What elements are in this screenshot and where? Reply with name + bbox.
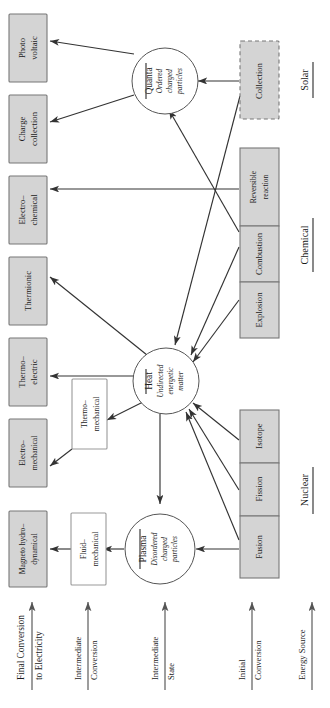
box-collection[interactable]: Collection bbox=[240, 41, 279, 119]
label-combustion-line1: Combustion bbox=[254, 232, 264, 275]
label-collection-line1: Collection bbox=[254, 62, 264, 99]
box-electro-chemical[interactable]: Electro– chemical bbox=[9, 176, 47, 244]
label-axis-intermediate-state-line1: Intermediate bbox=[150, 636, 160, 680]
edge-isotope-heat bbox=[193, 403, 239, 440]
label-axis-intermediate-conversion-line1: Intermediate bbox=[73, 636, 83, 680]
edge-explosion-heat bbox=[193, 300, 239, 362]
label-axis-initial-conversion-line2: Conversion bbox=[253, 640, 263, 680]
label-photo-voltaic-line1: Photo bbox=[17, 38, 27, 58]
box-combustion[interactable]: Combustion bbox=[240, 226, 279, 282]
box-thermionic[interactable]: Thermionic bbox=[9, 257, 47, 325]
box-fusion[interactable]: Fusion bbox=[240, 516, 279, 578]
box-electro-mechanical[interactable]: Electro– mechanical bbox=[9, 419, 47, 487]
label-fluid-mechanical-line1: Fluid– bbox=[79, 539, 88, 559]
box-thermo-mechanical[interactable]: Thermo– mechanical bbox=[72, 379, 107, 449]
box-fluid-mechanical[interactable]: Fluid– mechanical bbox=[71, 513, 106, 585]
label-thermo-electric-line2: electric bbox=[29, 359, 39, 384]
label-axis-energy-source-line1: Energy Source bbox=[297, 629, 307, 680]
label-electro-chemical-line2: chemical bbox=[29, 194, 39, 226]
category-labels: Solar Chemical Nuclear bbox=[299, 62, 313, 514]
label-magneto-hydrodynamical-line1: Magneto hydro– bbox=[18, 524, 27, 575]
label-category-nuclear: Nuclear bbox=[299, 473, 310, 506]
label-fusion-line1: Fusion bbox=[254, 535, 264, 559]
label-quanta-sub2: charged bbox=[165, 69, 174, 93]
node-plasma[interactable]: Plasma Disordered charged particles bbox=[125, 514, 195, 584]
label-charge-collection-line2: collection bbox=[29, 111, 39, 146]
edge-quanta-charge-collection bbox=[50, 95, 134, 122]
label-axis-intermediate-state-line2: State bbox=[166, 663, 176, 680]
label-isotope-line1: Isotope bbox=[254, 423, 264, 448]
category-chemical: Chemical bbox=[299, 218, 313, 272]
category-solar: Solar bbox=[299, 62, 313, 98]
label-axis-final-conversion-line1: Final Conversion bbox=[16, 615, 26, 680]
label-electro-mechanical-line1: Electro– bbox=[18, 440, 27, 466]
label-electro-chemical-line1: Electro– bbox=[17, 195, 27, 225]
initial-conversion-column: Collection Reversible reaction Combustio… bbox=[240, 41, 279, 578]
label-axis-final-conversion-line2: to Electricity bbox=[34, 631, 44, 680]
box-photo-voltaic[interactable]: Photo voltaic bbox=[9, 14, 47, 82]
edge-collection-heat bbox=[175, 96, 240, 345]
intermediate-state-column: Quanta Ordered charged particles Heat Un… bbox=[125, 48, 199, 584]
label-explosion-line1: Explosion bbox=[254, 292, 264, 328]
box-explosion[interactable]: Explosion bbox=[240, 282, 279, 338]
label-category-solar: Solar bbox=[299, 69, 310, 91]
label-fluid-mechanical-line2: mechanical bbox=[91, 532, 100, 567]
label-reversible-reaction-line2: reaction bbox=[261, 175, 270, 200]
box-charge-collection[interactable]: Charge collection bbox=[9, 95, 47, 163]
axis-energy-source: Energy Source bbox=[297, 602, 312, 690]
axis-intermediate-state: Intermediate State bbox=[150, 602, 176, 690]
node-quanta[interactable]: Quanta Ordered charged particles bbox=[132, 48, 198, 114]
axis-final-conversion: Final Conversion to Electricity bbox=[16, 602, 44, 690]
label-quanta-sub3: particles bbox=[175, 68, 184, 95]
final-conversion-column: Photo voltaic Charge collection Electro–… bbox=[9, 14, 47, 587]
label-plasma-sub2: charged bbox=[160, 537, 169, 561]
label-thermo-electric-line1: Thermo– bbox=[17, 356, 27, 388]
axis-intermediate-conversion: Intermediate Conversion bbox=[73, 602, 99, 690]
intermediate-conversion-column: Thermo– mechanical Fluid– mechanical bbox=[71, 379, 107, 585]
label-thermo-mechanical-line1: Thermo– bbox=[80, 400, 89, 428]
label-magneto-hydrodynamical-line2: dynamical bbox=[30, 533, 39, 565]
edge-fusion-heat bbox=[186, 412, 239, 540]
label-category-chemical: Chemical bbox=[299, 225, 310, 264]
label-axis-intermediate-conversion-line2: Conversion bbox=[89, 640, 99, 680]
label-fission-line1: Fission bbox=[254, 476, 264, 502]
label-heat-sub1: Undirected bbox=[156, 364, 165, 397]
edge-thermomechanical-electromechanical bbox=[50, 449, 72, 466]
edge-combustion-quanta bbox=[169, 110, 239, 232]
box-reversible-reaction[interactable]: Reversible reaction bbox=[240, 148, 279, 226]
label-heat-sub3: matter bbox=[176, 371, 185, 390]
edge-quanta-photovoltaic bbox=[50, 41, 134, 54]
energy-conversion-diagram: Photo voltaic Charge collection Electro–… bbox=[0, 0, 330, 708]
label-electro-mechanical-line2: mechanical bbox=[30, 436, 39, 471]
label-charge-collection-line1: Charge bbox=[17, 116, 27, 141]
label-heat-sub2: energetic bbox=[166, 367, 175, 395]
label-plasma-sub1: Disordered bbox=[150, 532, 159, 566]
axis-label-group: Final Conversion to Electricity Intermed… bbox=[16, 602, 312, 690]
label-plasma-sub3: particles bbox=[170, 536, 179, 563]
axis-initial-conversion: Initial Conversion bbox=[237, 602, 263, 690]
label-reversible-reaction-line1: Reversible bbox=[249, 170, 258, 203]
label-thermo-mechanical-line2: mechanical bbox=[92, 397, 101, 432]
category-nuclear: Nuclear bbox=[299, 467, 313, 514]
box-magneto-hydrodynamical[interactable]: Magneto hydro– dynamical bbox=[9, 511, 47, 587]
label-quanta-sub1: Ordered bbox=[155, 68, 164, 93]
label-axis-initial-conversion-line1: Initial bbox=[237, 659, 247, 680]
edge-fission-heat bbox=[189, 409, 239, 490]
edge-heat-thermionic bbox=[50, 277, 147, 355]
edge-combustion-heat bbox=[191, 247, 239, 355]
label-thermionic-line1: Thermionic bbox=[23, 271, 33, 311]
box-fission[interactable]: Fission bbox=[240, 463, 279, 516]
box-isotope[interactable]: Isotope bbox=[240, 410, 279, 463]
box-thermo-electric[interactable]: Thermo– electric bbox=[9, 338, 47, 406]
diagram-canvas: Photo voltaic Charge collection Electro–… bbox=[0, 0, 330, 708]
node-heat[interactable]: Heat Undirected energetic matter bbox=[133, 348, 199, 414]
label-photo-voltaic-line2: voltaic bbox=[29, 36, 39, 60]
